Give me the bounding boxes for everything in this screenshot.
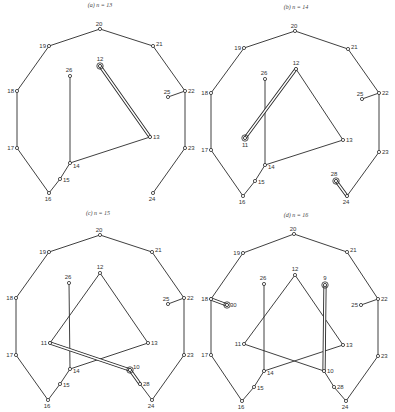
edge-19-20: [243, 234, 294, 253]
node-10: [322, 369, 325, 372]
node-label: 18: [201, 296, 208, 302]
node-label: 15: [257, 385, 264, 391]
node-22: [182, 296, 185, 299]
edge-21-22: [153, 46, 185, 91]
node-label: 12: [97, 56, 104, 62]
panel-title: (b) n = 14: [284, 4, 309, 11]
edge-22-25: [168, 298, 184, 304]
node-24: [344, 399, 347, 402]
node-label: 19: [39, 249, 46, 255]
node-label: 26: [261, 70, 268, 76]
node-label: 22: [188, 88, 195, 94]
double-edge-inner: [324, 285, 325, 371]
node-label: 14: [267, 370, 274, 376]
node-label: 26: [65, 274, 72, 280]
node-label: 11: [242, 142, 249, 148]
node-label: 24: [149, 196, 156, 202]
node-19: [47, 250, 50, 253]
edge-22-25: [361, 299, 378, 305]
node-23: [182, 353, 185, 356]
node-20: [98, 27, 101, 30]
node-label: 20: [291, 23, 298, 29]
node-label: 12: [293, 60, 300, 66]
node-12: [98, 64, 101, 67]
node-label: 28: [143, 381, 150, 387]
double-edge-inner: [50, 343, 130, 370]
node-22: [376, 297, 379, 300]
node-18: [209, 91, 212, 94]
panel-d-n16: (d) n = 16202122232416171819121314152625…: [201, 212, 388, 410]
node-13: [146, 341, 149, 344]
node-label: 17: [7, 145, 14, 151]
node-label: 10: [327, 368, 334, 374]
node-17: [209, 353, 212, 356]
node-14: [68, 367, 71, 370]
node-21: [150, 250, 153, 253]
node-label: 15: [63, 382, 70, 388]
node-label: 14: [268, 164, 275, 170]
node-9: [323, 283, 326, 286]
node-label: 20: [96, 227, 103, 233]
node-label: 28: [331, 171, 338, 177]
graph-figure: (a) n = 13202122232416171819121314152625…: [0, 0, 395, 412]
edge-21-22: [152, 252, 184, 298]
node-18: [14, 296, 17, 299]
double-edge-inner: [211, 299, 227, 305]
node-26: [263, 77, 266, 80]
node-19: [242, 46, 245, 49]
edge-18-19: [211, 253, 243, 299]
node-15: [58, 382, 61, 385]
node-label: 14: [73, 368, 80, 374]
edge-12-13: [100, 273, 148, 343]
node-label: 30: [230, 302, 237, 308]
double-edge-inner: [336, 181, 347, 196]
node-label: 11: [41, 340, 48, 346]
node-label: 13: [346, 137, 353, 143]
edge-18-19: [211, 48, 244, 93]
node-14: [262, 369, 265, 372]
node-label: 23: [187, 352, 194, 358]
edge-16-17: [17, 148, 49, 193]
node-label: 23: [382, 149, 389, 155]
node-label: 18: [6, 295, 13, 301]
double-edge-inner: [245, 69, 296, 138]
node-label: 25: [357, 91, 364, 97]
node-label: 24: [342, 404, 349, 410]
edge-16-15: [49, 179, 60, 193]
edge-23-24: [346, 356, 378, 401]
node-13: [341, 343, 344, 346]
node-label: 21: [156, 41, 163, 47]
edge-23-24: [347, 152, 379, 196]
edge-16-15: [243, 181, 255, 196]
edge-21-22: [347, 252, 378, 299]
node-12: [98, 271, 101, 274]
node-17: [209, 148, 212, 151]
edge-23-24: [152, 355, 184, 400]
node-label: 21: [155, 247, 162, 253]
double-edge-inner: [130, 370, 140, 384]
node-19: [47, 44, 50, 47]
node-22: [377, 91, 380, 94]
edge-22-25: [362, 93, 379, 99]
node-label: 17: [6, 352, 13, 358]
node-label: 16: [239, 199, 246, 205]
node-label: 22: [381, 296, 388, 302]
edge-20-21: [295, 31, 348, 49]
node-26: [68, 74, 71, 77]
node-label: 26: [260, 275, 267, 281]
edge-19-20: [49, 235, 100, 252]
node-12: [294, 67, 297, 70]
node-label: 17: [201, 147, 208, 153]
node-label: 10: [133, 364, 140, 370]
node-16: [240, 399, 243, 402]
panel-title: (a) n = 13: [88, 2, 113, 9]
node-label: 16: [238, 404, 245, 410]
node-23: [377, 150, 380, 153]
node-label: 25: [164, 89, 171, 95]
node-label: 26: [66, 67, 73, 73]
edge-19-20: [49, 29, 100, 46]
node-label: 20: [96, 21, 103, 27]
node-label: 13: [153, 134, 160, 140]
node-label: 19: [233, 250, 240, 256]
node-label: 19: [39, 43, 46, 49]
